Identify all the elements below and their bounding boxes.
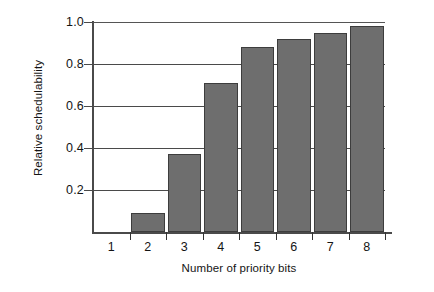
y-axis-tick-label: 0.2 (46, 183, 84, 197)
x-axis-tick (385, 232, 386, 240)
y-axis-tick-label: 0.8 (46, 57, 84, 71)
x-axis-tick (312, 232, 313, 240)
bar (277, 39, 311, 232)
bar (350, 26, 384, 232)
x-axis-tick-label: 2 (130, 240, 166, 254)
x-axis-tick (239, 232, 240, 240)
x-axis-tick-label: 7 (312, 240, 348, 254)
chart-figure: Relative schedulability 0.20.40.60.81.0 … (0, 0, 434, 292)
x-axis-line (92, 232, 392, 234)
x-axis-title: Number of priority bits (93, 262, 385, 274)
y-axis-tick (84, 148, 93, 149)
y-axis-tick-label: 0.4 (46, 141, 84, 155)
x-axis-tick-label: 4 (203, 240, 239, 254)
y-axis-tick (84, 106, 93, 107)
y-axis-tick-label: 0.6 (46, 99, 84, 113)
x-axis-tick-label: 5 (239, 240, 275, 254)
x-axis-tick (276, 232, 277, 240)
x-axis-tick-label: 6 (276, 240, 312, 254)
x-axis-tick-label: 1 (93, 240, 129, 254)
x-axis-tick (349, 232, 350, 240)
y-axis-tick-label: 1.0 (46, 15, 84, 29)
gridline (93, 22, 385, 23)
y-axis-tick (84, 22, 93, 23)
y-axis-title: Relative schedulability (32, 18, 44, 218)
bar (204, 83, 238, 232)
x-axis-tick-label: 3 (166, 240, 202, 254)
x-axis-tick (203, 232, 204, 240)
bar (241, 47, 275, 232)
x-axis-tick-label: 8 (349, 240, 385, 254)
y-axis-tick (84, 64, 93, 65)
bar (131, 213, 165, 232)
bar (168, 154, 202, 232)
x-axis-tick (166, 232, 167, 240)
y-axis-tick-labels: 0.20.40.60.81.0 (46, 0, 84, 292)
bar (314, 33, 348, 233)
x-axis-tick (130, 232, 131, 240)
y-axis-tick (84, 190, 93, 191)
